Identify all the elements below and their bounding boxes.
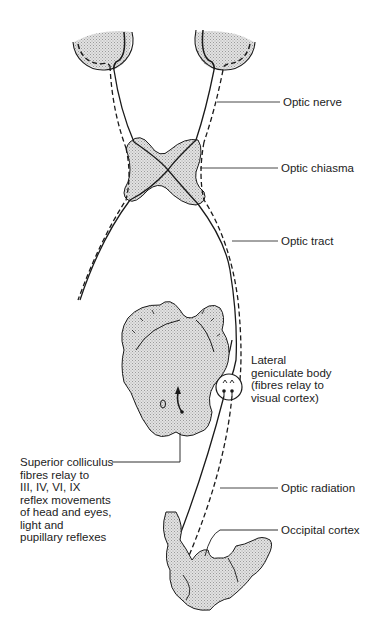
label-optic-tract: Optic tract [281,235,333,248]
sc-line-3: III, IV, VI, IX [20,481,113,494]
label-superior-colliculus: Superior colliculus fibres relay to III,… [20,456,113,544]
label-optic-radiation: Optic radiation [281,482,355,495]
sc-line-1: Superior colliculus [20,456,113,469]
lgb-line-3: (fibres relay to [251,379,332,392]
lgb-line-1: Lateral [251,354,332,367]
lgb-line-2: geniculate body [251,367,332,380]
midbrain-section [122,301,229,436]
sc-line-6: light and [20,519,113,532]
occipital-cortex-shape [163,512,271,610]
label-lateral-geniculate-body: Lateral geniculate body (fibres relay to… [251,354,332,404]
label-optic-nerve: Optic nerve [283,96,342,109]
sc-line-2: fibres relay to [20,469,113,482]
left-eye [73,31,133,70]
right-eye [195,30,255,70]
label-optic-chiasma: Optic chiasma [281,162,354,175]
sc-line-4: reflex movements [20,494,113,507]
label-occipital-cortex: Occipital cortex [281,524,360,537]
sc-line-5: of head and eyes, [20,506,113,519]
lateral-geniculate-body [216,374,242,400]
optic-chiasma-shape [124,138,205,205]
lgb-line-4: visual cortex) [251,392,332,405]
sc-line-7: pupillary reflexes [20,531,113,544]
